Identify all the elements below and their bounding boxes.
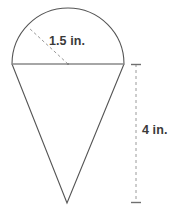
cone-triangle bbox=[12, 64, 124, 203]
center-point-dot bbox=[67, 63, 69, 65]
height-label: 4 in. bbox=[142, 123, 168, 137]
radius-label: 1.5 in. bbox=[49, 34, 85, 48]
figure-svg bbox=[0, 0, 173, 211]
geometry-figure: 1.5 in. 4 in. bbox=[0, 0, 173, 211]
